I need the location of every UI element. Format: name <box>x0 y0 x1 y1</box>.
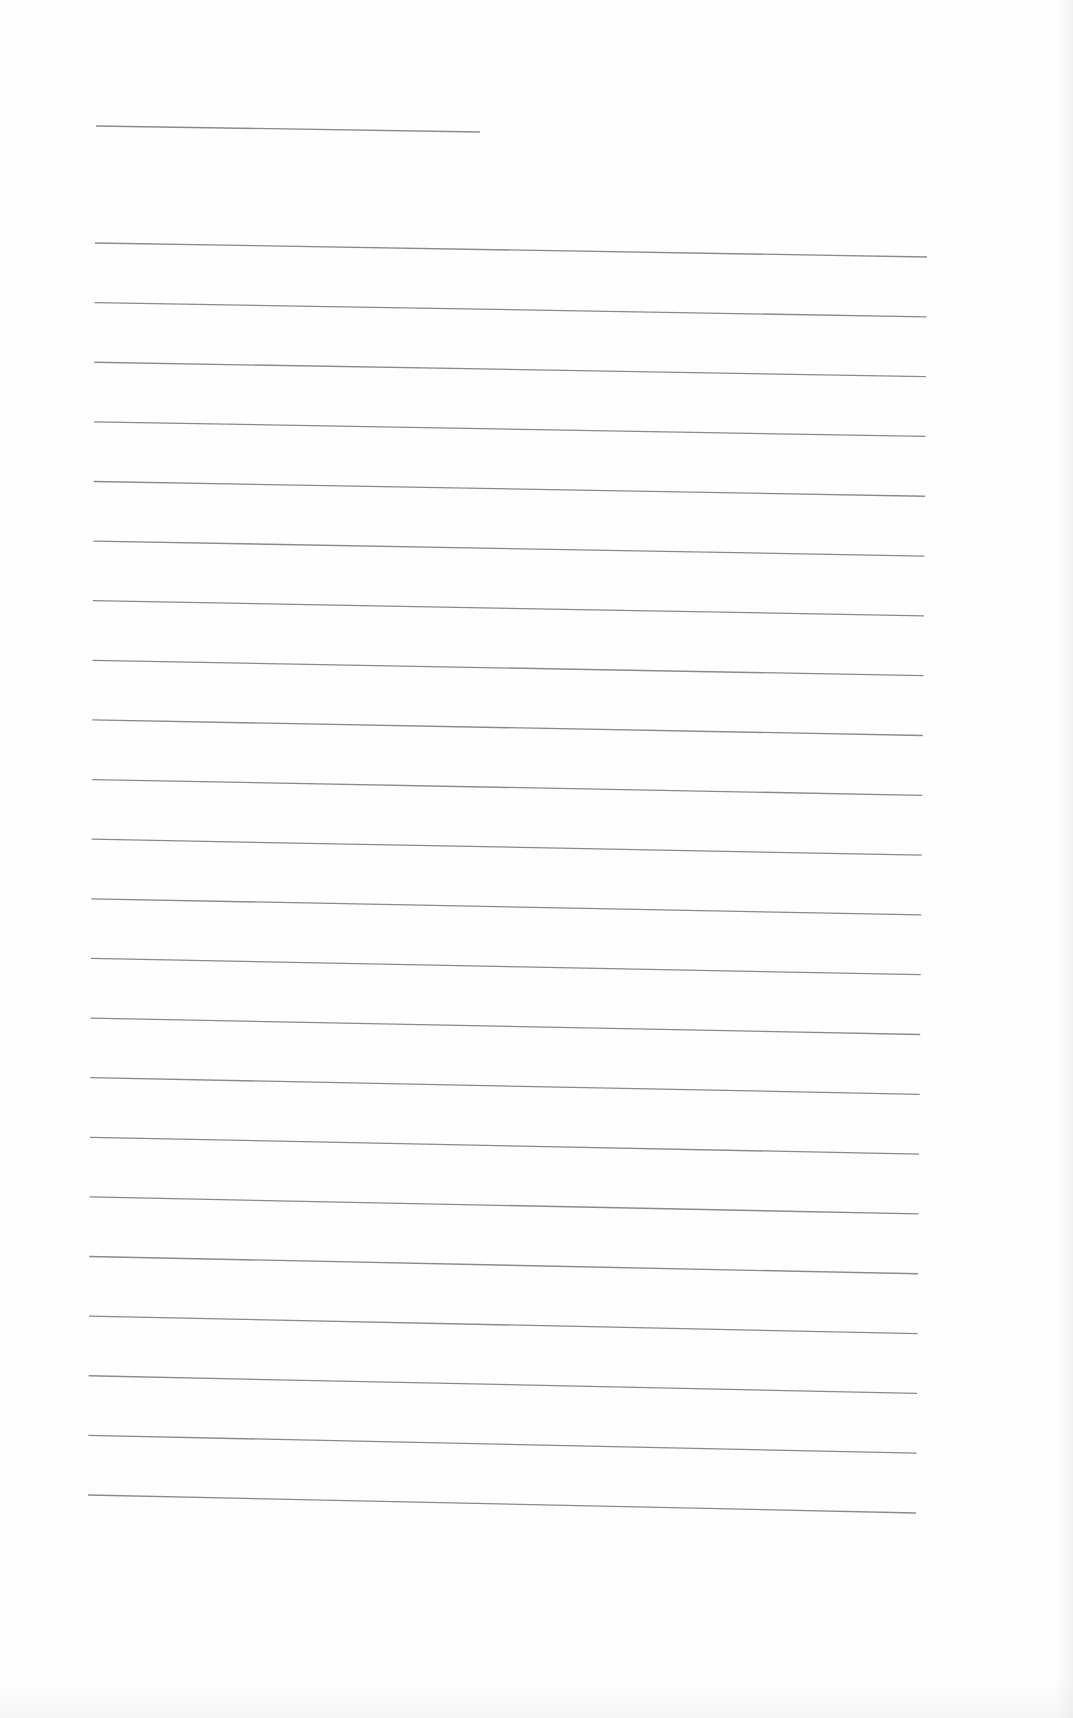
ruled-line <box>91 899 921 915</box>
ruled-line <box>95 243 927 257</box>
ruled-lines-group <box>88 243 927 1513</box>
ruled-line <box>91 1018 921 1034</box>
ruled-line <box>90 1078 919 1095</box>
ruled-line <box>89 1257 918 1274</box>
ruled-line <box>90 1137 919 1154</box>
ruled-lines <box>0 0 1073 1718</box>
ruled-line <box>88 1435 916 1453</box>
ruled-line <box>93 601 924 616</box>
ruled-line <box>93 541 924 556</box>
ruled-line <box>89 1316 918 1333</box>
lined-paper-page <box>0 0 1073 1718</box>
ruled-line <box>95 303 927 317</box>
ruled-line <box>94 362 926 376</box>
scan-shadow <box>0 1678 1073 1718</box>
ruled-line <box>93 660 924 675</box>
ruled-line <box>92 839 922 855</box>
ruled-line <box>91 958 921 974</box>
ruled-line <box>94 481 925 496</box>
ruled-line <box>92 780 922 796</box>
title-line <box>96 126 480 132</box>
ruled-line <box>88 1495 916 1513</box>
ruled-line <box>90 1197 919 1214</box>
ruled-line <box>92 720 922 736</box>
ruled-line <box>94 422 925 437</box>
ruled-line <box>89 1376 917 1394</box>
